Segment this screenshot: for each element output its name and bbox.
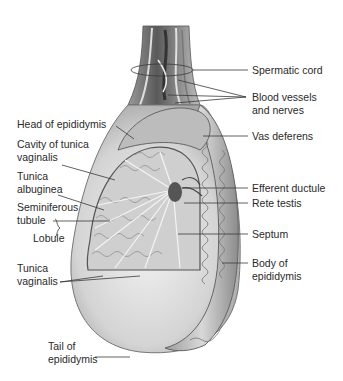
label-line: albuginea bbox=[17, 183, 63, 196]
label-line: vaginalis bbox=[17, 275, 58, 288]
label-line: vaginalis bbox=[17, 151, 89, 164]
label-line: Body of bbox=[252, 257, 302, 270]
label-line: Vas deferens bbox=[252, 130, 313, 143]
label-line: Spermatic cord bbox=[252, 64, 323, 77]
label-line: Rete testis bbox=[252, 197, 302, 210]
label-vas-deferens: Vas deferens bbox=[252, 130, 313, 143]
label-tunica-vaginalis: Tunica vaginalis bbox=[17, 262, 58, 288]
label-tail-of-epididymis: Tail of epididymis bbox=[48, 340, 98, 366]
label-line: Lobule bbox=[33, 232, 65, 245]
label-tunica-albuginea: Tunica albuginea bbox=[17, 170, 63, 196]
label-seminiferous-tubule: Seminiferous tubule bbox=[17, 201, 78, 227]
label-spermatic-cord: Spermatic cord bbox=[252, 64, 323, 77]
label-line: Tail of bbox=[48, 340, 98, 353]
label-line: Seminiferous bbox=[17, 201, 78, 214]
label-lobule: Lobule bbox=[33, 232, 65, 245]
label-line: Tunica bbox=[17, 170, 63, 183]
label-cavity-of-tunica-vaginalis: Cavity of tunica vaginalis bbox=[17, 138, 89, 164]
label-line: epididymis bbox=[48, 353, 98, 366]
label-septum: Septum bbox=[252, 228, 288, 241]
spermatic-cord-drawing bbox=[128, 26, 200, 105]
label-line: epididymis bbox=[252, 270, 302, 283]
label-blood-vessels-and-nerves: Blood vessels and nerves bbox=[252, 91, 317, 117]
label-line: Blood vessels bbox=[252, 91, 317, 104]
label-line: Septum bbox=[252, 228, 288, 241]
label-line: Head of epididymis bbox=[17, 118, 106, 131]
label-head-of-epididymis: Head of epididymis bbox=[17, 118, 106, 131]
label-body-of-epididymis: Body of epididymis bbox=[252, 257, 302, 283]
label-efferent-ductule: Efferent ductule bbox=[252, 182, 325, 195]
label-line: tubule bbox=[17, 214, 78, 227]
label-line: Cavity of tunica bbox=[17, 138, 89, 151]
label-rete-testis: Rete testis bbox=[252, 197, 302, 210]
label-line: and nerves bbox=[252, 104, 317, 117]
label-line: Efferent ductule bbox=[252, 182, 325, 195]
label-line: Tunica bbox=[17, 262, 58, 275]
rete-testis-drawing bbox=[168, 182, 182, 202]
